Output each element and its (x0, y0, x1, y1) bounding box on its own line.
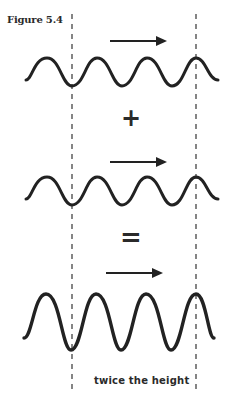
arrow-right-icon (110, 157, 167, 167)
arrow-right-icon (110, 36, 167, 46)
wave-2 (26, 177, 218, 205)
arrow-right-icon (106, 268, 163, 278)
plus-sign: + (121, 104, 141, 132)
figure-label: Figure 5.4 (7, 14, 63, 25)
caption: twice the height (94, 375, 189, 386)
wave-1 (26, 58, 218, 86)
wave-superposition-diagram (0, 0, 231, 400)
equals-sign: = (120, 222, 142, 252)
wave-3-sum (24, 294, 214, 350)
